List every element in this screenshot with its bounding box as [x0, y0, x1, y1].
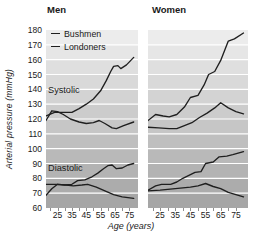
background-band	[148, 45, 248, 60]
y-tick-label: 90	[20, 159, 42, 169]
y-tick-label: 130	[20, 99, 42, 109]
londoners-line-swatch	[51, 46, 60, 47]
y-tick-label: 120	[20, 114, 42, 124]
y-tick-label: 100	[20, 144, 42, 154]
background-band	[46, 149, 138, 164]
background-band	[148, 60, 248, 75]
background-band	[148, 75, 248, 90]
background-band	[148, 30, 248, 45]
background-band	[46, 119, 138, 134]
background-band	[148, 89, 248, 104]
background-band	[148, 193, 248, 208]
blood-pressure-figure: Arterial pressure (mmHg) 180170160150140…	[0, 0, 255, 242]
legend: Bushmen Londoners	[51, 27, 106, 53]
background-band	[148, 104, 248, 119]
x-axis-title: Age (years)	[108, 221, 155, 231]
legend-label-londoners: Londoners	[64, 42, 106, 52]
diastolic-label: Diastolic	[48, 163, 83, 173]
y-tick-label: 60	[20, 203, 42, 213]
y-tick-label: 160	[20, 55, 42, 65]
legend-label-bushmen: Bushmen	[64, 29, 101, 39]
y-tick-label: 180	[20, 25, 42, 35]
background-band	[46, 134, 138, 149]
panel-title-women: Women	[152, 4, 186, 15]
y-tick-label: 150	[20, 70, 42, 80]
y-tick-label: 110	[20, 129, 42, 139]
background-band	[148, 149, 248, 164]
y-tick-label: 70	[20, 188, 42, 198]
bushmen-line-swatch	[51, 33, 60, 34]
y-tick-label: 80	[20, 173, 42, 183]
background-band	[148, 134, 248, 149]
x-tick-label: 75	[227, 210, 245, 220]
x-tick-label: 75	[120, 210, 138, 220]
systolic-label: Systolic	[48, 85, 80, 95]
background-band	[46, 193, 138, 208]
background-band	[148, 164, 248, 179]
y-tick-label: 140	[20, 84, 42, 94]
y-axis-title: Arterial pressure (mmHg)	[4, 69, 14, 169]
men-chart-panel	[46, 30, 138, 208]
women-chart-panel	[148, 30, 248, 208]
background-band	[148, 119, 248, 134]
y-tick-label: 170	[20, 40, 42, 50]
legend-item-bushmen: Bushmen	[51, 27, 106, 40]
legend-item-londoners: Londoners	[51, 40, 106, 53]
background-band	[46, 60, 138, 75]
panel-title-men: Men	[47, 4, 66, 15]
